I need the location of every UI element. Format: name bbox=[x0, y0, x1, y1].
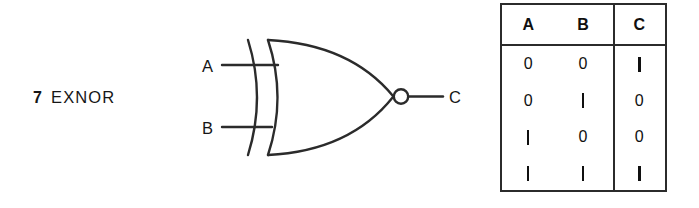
cell-a bbox=[502, 166, 554, 181]
cell-a bbox=[502, 130, 554, 145]
cell-b: 0 bbox=[554, 128, 611, 146]
cell-c: 0 bbox=[614, 128, 665, 146]
cell-b: 0 bbox=[554, 55, 611, 73]
gate-body-bottom-curve bbox=[268, 97, 393, 155]
column-header-b: B bbox=[554, 5, 611, 44]
digit-one-glyph bbox=[527, 166, 530, 181]
cell-a: 0 bbox=[502, 55, 554, 73]
gate-schematic-svg bbox=[190, 10, 480, 190]
table-row bbox=[502, 156, 665, 193]
truth-table-body: 0 0 0 0 0 0 bbox=[502, 46, 665, 192]
inversion-bubble-icon bbox=[394, 89, 408, 103]
gate-body-top-curve bbox=[268, 40, 393, 96]
cell-c: 0 bbox=[614, 92, 665, 110]
digit-one-glyph bbox=[582, 93, 585, 108]
truth-table-inner: A B C 0 0 0 0 0 0 bbox=[502, 5, 665, 190]
digit-one-glyph bbox=[582, 166, 585, 181]
exnor-gate-diagram: A B C bbox=[190, 10, 480, 190]
cell-c bbox=[614, 166, 665, 181]
cell-b bbox=[554, 93, 611, 108]
output-c-label: C bbox=[449, 88, 461, 107]
figure-container: 7 EXNOR A B C bbox=[0, 0, 699, 208]
table-row: 0 0 bbox=[502, 46, 665, 83]
cell-c bbox=[614, 57, 665, 72]
digit-one-glyph bbox=[527, 130, 530, 145]
table-row: 0 0 bbox=[502, 119, 665, 156]
truth-table-header-row: A B C bbox=[502, 5, 665, 44]
digit-one-glyph bbox=[638, 57, 641, 72]
gate-inner-back-arc bbox=[268, 40, 278, 155]
gate-name-label: EXNOR bbox=[51, 88, 115, 107]
digit-one-glyph bbox=[638, 166, 641, 181]
figure-caption: 7 EXNOR bbox=[33, 88, 115, 107]
table-row: 0 0 bbox=[502, 83, 665, 120]
truth-table: A B C 0 0 0 0 0 0 bbox=[500, 3, 667, 192]
input-b-label: B bbox=[202, 119, 213, 138]
gate-outer-back-arc bbox=[248, 40, 257, 155]
cell-b bbox=[554, 166, 611, 181]
input-a-label: A bbox=[202, 57, 213, 76]
cell-a: 0 bbox=[502, 92, 554, 110]
column-header-c: C bbox=[614, 5, 665, 44]
figure-index: 7 bbox=[33, 89, 42, 107]
column-header-a: A bbox=[502, 5, 554, 44]
